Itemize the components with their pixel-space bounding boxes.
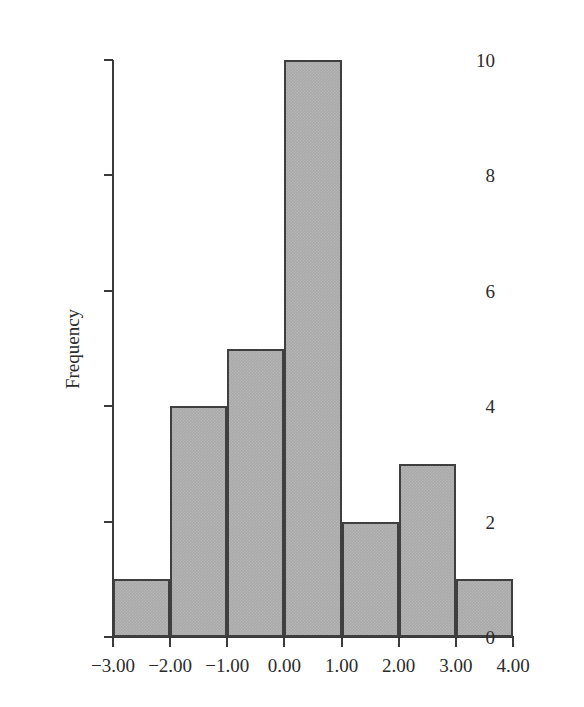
histogram-bar [227,349,284,638]
x-tick-label: 4.00 [496,656,529,675]
histogram-bar [284,60,341,637]
histogram-bar [456,579,513,637]
y-tick-label: 6 [486,281,496,300]
x-tick-mark [226,636,228,647]
x-tick-mark [455,636,457,647]
y-tick-mark [104,174,113,176]
x-tick-mark [112,636,114,647]
x-tick-mark [512,636,514,647]
y-tick-label: 0 [486,628,496,647]
histogram-bar [170,406,227,637]
y-tick-label: 4 [486,397,496,416]
x-tick-mark [169,636,171,647]
x-tick-label: 2.00 [382,656,415,675]
y-tick-label: 2 [486,512,496,531]
y-tick-mark [104,521,113,523]
y-axis-line [112,60,114,638]
x-tick-mark [341,636,343,647]
plot-area: Frequency 0246810 −3.00−2.00−1.000.001.0… [113,60,513,637]
histogram-bar [342,522,399,637]
x-tick-label: −2.00 [148,656,192,675]
x-tick-label: −3.00 [91,656,135,675]
y-axis-title: Frequency [62,308,84,388]
y-tick-mark [104,59,113,61]
y-tick-label: 8 [486,166,496,185]
histogram-figure: Frequency 0246810 −3.00−2.00−1.000.001.0… [0,0,584,707]
x-tick-label: −1.00 [205,656,249,675]
y-tick-mark [104,290,113,292]
y-tick-mark [104,405,113,407]
x-tick-label: 0.00 [268,656,301,675]
y-tick-label: 10 [476,51,495,70]
x-tick-label: 3.00 [439,656,472,675]
histogram-bar [399,464,456,637]
x-tick-label: 1.00 [325,656,358,675]
x-tick-mark [283,636,285,647]
x-tick-mark [398,636,400,647]
histogram-bar [113,579,170,637]
